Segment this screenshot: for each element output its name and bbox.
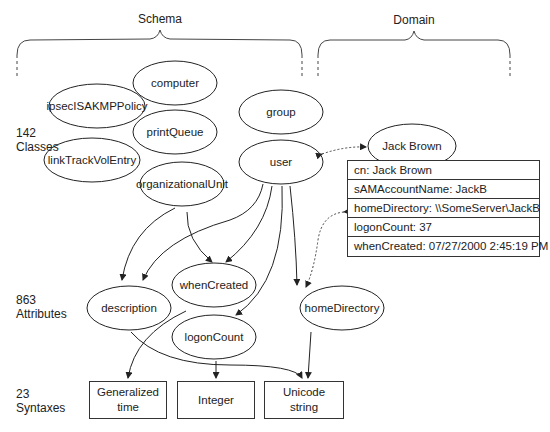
- record-row-cn: cn: Jack Brown: [348, 161, 539, 180]
- record-row-homedirectory: homeDirectory: \\SomeServer\JackB: [348, 199, 539, 218]
- class-computer[interactable]: computer: [151, 77, 199, 89]
- class-printqueue[interactable]: printQueue: [147, 126, 204, 138]
- attributes-label: 863 Attributes: [16, 293, 67, 321]
- schema-brace: [17, 30, 302, 55]
- attribute-homedirectory[interactable]: homeDirectory: [305, 302, 380, 314]
- attribute-whencreated[interactable]: whenCreated: [180, 279, 248, 291]
- syntax-generalized-time[interactable]: Generalizedtime: [89, 381, 167, 419]
- domain-brace: [318, 31, 510, 55]
- record-row-logoncount: logonCount: 37: [348, 218, 539, 237]
- attribute-logoncount[interactable]: logonCount: [185, 331, 244, 343]
- syntax-unicode-string[interactable]: Unicodestring: [264, 381, 344, 419]
- record-row-samaccountname: sAMAccountName: JackB: [348, 180, 539, 199]
- class-organizationalunit[interactable]: organizationalUnit: [136, 178, 228, 190]
- schema-header: Schema: [138, 12, 182, 26]
- domain-object-jack-brown[interactable]: Jack Brown: [382, 140, 441, 152]
- jack-brown-attribute-table: cn: Jack Brown sAMAccountName: JackB hom…: [347, 160, 540, 257]
- attribute-description[interactable]: description: [101, 302, 157, 314]
- classes-label: 142 Classes: [16, 126, 59, 154]
- class-group[interactable]: group: [266, 106, 295, 118]
- syntaxes-label: 23 Syntaxes: [16, 387, 65, 415]
- class-linktrackvolentry[interactable]: linkTrackVolEntry: [48, 154, 136, 166]
- record-row-whencreated: whenCreated: 07/27/2000 2:45:19 PM: [348, 237, 539, 256]
- syntax-integer[interactable]: Integer: [177, 381, 255, 419]
- domain-header: Domain: [393, 13, 434, 27]
- class-user[interactable]: user: [270, 156, 292, 168]
- class-ipsecisakmppolicy[interactable]: ipsecISAKMPPolicy: [47, 100, 148, 112]
